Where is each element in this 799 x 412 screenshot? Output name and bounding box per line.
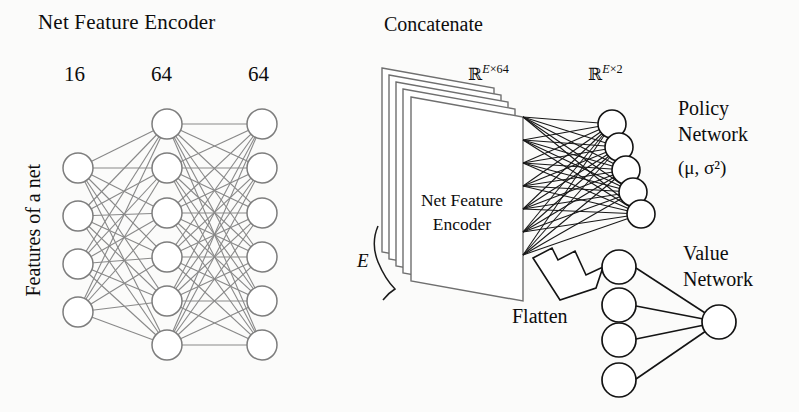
encoder-card-stack — [382, 68, 523, 301]
diagram-root: Net Feature Encoder 16 64 64 Features of… — [0, 0, 799, 412]
value-output-node — [702, 305, 736, 339]
encoder-title: Net Feature Encoder — [38, 11, 216, 35]
encoder-output-node — [247, 109, 277, 139]
policy-network-title: Policy Network — [678, 96, 793, 147]
dim-label-e-by-2: ℝE×2 — [588, 63, 623, 84]
stack-count-label: E — [357, 250, 369, 271]
concatenate-label: Concatenate — [384, 13, 483, 35]
policy-title-line2: Network — [678, 123, 748, 145]
value-title-line1: Value — [683, 242, 729, 264]
stack-card-label: Net Feature Encoder — [403, 188, 521, 236]
encoder-hidden-node — [152, 242, 182, 272]
encoder-input-node — [63, 297, 93, 327]
policy-node — [627, 200, 655, 228]
encoder-output-node — [247, 198, 277, 228]
features-axis-label: Features of a net — [22, 135, 44, 325]
flatten-label: Flatten — [512, 305, 568, 327]
flatten-arrow-icon — [533, 248, 603, 300]
encoder-output-node — [247, 330, 277, 360]
value-input-node — [602, 363, 636, 397]
stack-card-label-line2: Encoder — [433, 214, 491, 234]
encoder-layer-size-output: 64 — [248, 63, 269, 87]
encoder-hidden-node — [152, 198, 182, 228]
stack-card-label-line1: Net Feature — [421, 190, 503, 210]
value-input-node — [602, 250, 636, 284]
encoder-hidden-node — [152, 330, 182, 360]
encoder-output-node — [247, 153, 277, 183]
policy-title-line1: Policy — [678, 97, 729, 119]
encoder-output-node — [247, 242, 277, 272]
encoder-input-node — [63, 201, 93, 231]
encoder-output-node — [247, 286, 277, 316]
dim-label-e-by-64: ℝE×64 — [468, 63, 509, 84]
policy-params-label: (μ, σ²) — [678, 157, 726, 178]
value-title-line2: Network — [683, 268, 753, 290]
encoder-hidden-node — [152, 153, 182, 183]
value-network-title: Value Network — [683, 241, 798, 292]
encoder-hidden-node — [152, 109, 182, 139]
encoder-layer-size-hidden: 64 — [151, 63, 172, 87]
value-input-node — [602, 288, 636, 322]
value-input-node — [602, 323, 636, 357]
encoder-input-node — [63, 249, 93, 279]
encoder-hidden-node — [152, 286, 182, 316]
encoder-nodes — [63, 109, 277, 360]
diagram-canvas — [0, 0, 799, 412]
encoder-layer-size-input: 16 — [64, 63, 85, 87]
encoder-input-node — [63, 153, 93, 183]
